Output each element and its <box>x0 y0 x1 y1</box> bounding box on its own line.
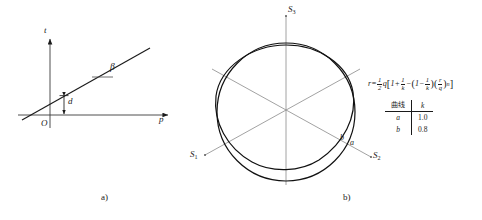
panel-b-axis-label-s2: S2 <box>373 151 381 161</box>
panel-b-caption: b) <box>343 192 351 202</box>
panel-a-intercept-label: d <box>68 97 73 106</box>
panel-b-k-table: 曲线 k a 1.0 b 0.8 <box>385 100 433 135</box>
formula-close-bracket: ] <box>450 79 454 90</box>
panel-a-trend-line <box>22 48 150 120</box>
formula-one-half: 1 2 <box>377 77 382 92</box>
formula-minus-2: − <box>419 80 425 88</box>
s3-sub: 3 <box>293 9 296 15</box>
k-table-header-curve: 曲线 <box>385 100 412 112</box>
table-row: a 1.0 <box>385 112 433 124</box>
panel-b-formula: r = 1 2 q [ 1 + 1 k − ( 1 − 1 k ) ( <box>368 77 480 92</box>
formula-r-over-q: r q <box>438 77 443 92</box>
k-table-cell-k-a: 1.0 <box>412 112 434 124</box>
formula-open-paren-2: ( <box>434 79 437 89</box>
invk2-denominator: k <box>425 85 429 92</box>
formula-one-over-k-2: 1 k <box>425 77 430 92</box>
panel-b-curve-label-a: a <box>350 139 354 147</box>
k-table-header-k: k <box>412 100 434 112</box>
panel-b-axis-label-s1: S1 <box>190 150 198 160</box>
figure-root: t p O β d S3 S1 S2 b a r = 1 2 q [ 1 + 1… <box>0 0 482 220</box>
k-table-cell-k-b: 0.8 <box>412 124 434 135</box>
formula-one-over-k: 1 k <box>401 77 406 92</box>
panel-a-origin-label: O <box>41 119 48 128</box>
s1-sub: 1 <box>195 154 198 160</box>
panel-a-x-axis-label: p <box>159 115 164 124</box>
panel-a-caption: a) <box>101 192 108 202</box>
table-row: b 0.8 <box>385 124 433 135</box>
half-denominator: 2 <box>377 85 382 92</box>
k-table-header-row: 曲线 k <box>385 100 433 112</box>
panel-b-axis-label-s3: S3 <box>288 5 296 15</box>
k-table-cell-curve-a: a <box>385 112 412 124</box>
formula-equals: = <box>371 80 377 88</box>
formula-plus: + <box>395 80 401 88</box>
k-table-cell-curve-b: b <box>385 124 412 135</box>
panel-b-curve-label-b: b <box>340 134 344 142</box>
s2-sub: 2 <box>378 155 381 161</box>
rq-denominator: q <box>438 85 443 92</box>
panel-b-formula-block: r = 1 2 q [ 1 + 1 k − ( 1 − 1 k ) ( <box>368 77 480 92</box>
invk-denominator: k <box>401 85 405 92</box>
panel-a-y-axis-label: t <box>44 26 47 35</box>
panel-a-angle-label: β <box>110 63 115 73</box>
panel-b-axis-s1 <box>205 69 360 155</box>
